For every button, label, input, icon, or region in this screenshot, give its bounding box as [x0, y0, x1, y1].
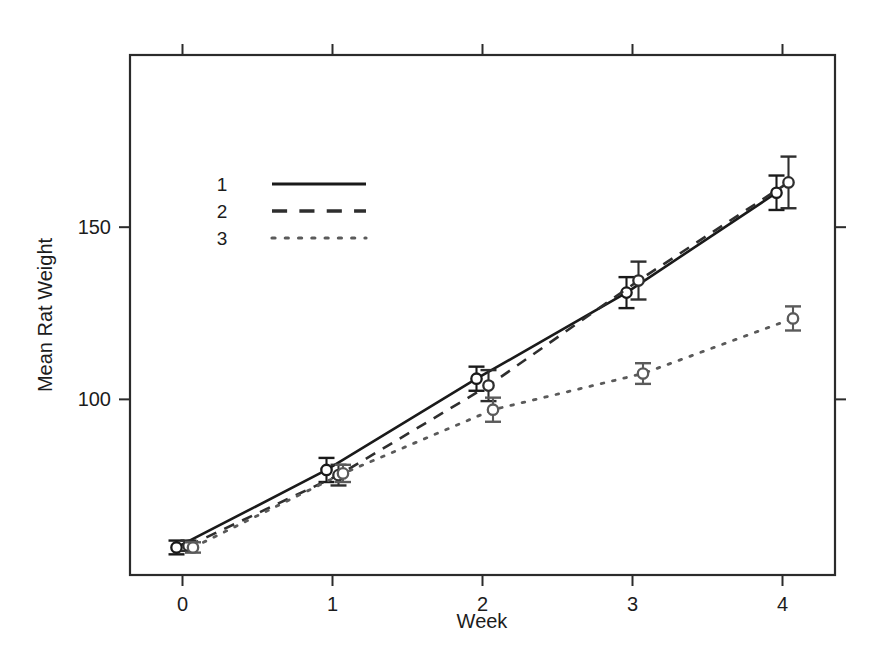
series-2: [181, 157, 797, 551]
data-point-2-3: [633, 275, 643, 285]
data-point-1-2: [471, 374, 481, 384]
rat-weight-line-chart: 01234 100150 Week Mean Rat Weight 123: [0, 0, 880, 660]
data-point-3-4: [788, 313, 798, 323]
legend-label-3: 3: [217, 228, 228, 249]
series-3: [185, 306, 801, 552]
series-1: [169, 176, 785, 555]
x-tick-label-0: 0: [177, 593, 188, 615]
y-tick-label-1: 150: [78, 216, 111, 238]
data-point-3-0: [188, 542, 198, 552]
y-axis-title: Mean Rat Weight: [34, 237, 56, 392]
x-axis-ticks: [183, 575, 783, 586]
y-axis-ticks: [119, 227, 130, 399]
data-point-3-2: [488, 405, 498, 415]
series-line-2: [189, 182, 789, 545]
x-axis-title: Week: [457, 610, 509, 632]
x-tick-label-4: 4: [777, 593, 788, 615]
data-series-group: [169, 157, 802, 555]
legend-label-2: 2: [217, 201, 228, 222]
data-point-3-3: [638, 368, 648, 378]
x-tick-label-3: 3: [627, 593, 638, 615]
legend-label-1: 1: [217, 174, 228, 195]
data-point-1-0: [171, 542, 181, 552]
plot-frame: [130, 55, 835, 575]
series-line-3: [193, 318, 793, 547]
legend: 123: [217, 174, 366, 249]
data-point-1-1: [321, 465, 331, 475]
data-point-2-4: [783, 177, 793, 187]
y-axis-ticks-right: [835, 227, 846, 399]
data-point-3-1: [338, 468, 348, 478]
x-tick-label-1: 1: [327, 593, 338, 615]
x-axis-ticks-top: [183, 44, 783, 55]
y-tick-label-0: 100: [78, 388, 111, 410]
data-point-2-2: [483, 380, 493, 390]
y-axis-tick-labels: 100150: [78, 216, 111, 410]
figure-canvas: 01234 100150 Week Mean Rat Weight 123: [0, 0, 880, 660]
